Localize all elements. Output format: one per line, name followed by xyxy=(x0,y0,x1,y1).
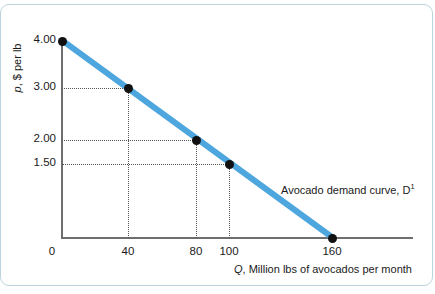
guide-line-vertical-80 xyxy=(196,140,197,238)
x-tick-label-100: 100 xyxy=(209,245,249,257)
guide-line-horizontal-1.50 xyxy=(62,164,230,165)
y-tick-label-1.50: 1.50 xyxy=(34,156,56,168)
x-axis-title-symbol: Q xyxy=(234,263,243,275)
guide-line-horizontal-2.00 xyxy=(62,140,197,141)
data-point-40-3.00 xyxy=(124,84,133,93)
guide-line-vertical-40 xyxy=(128,88,129,238)
data-point-80-2.00 xyxy=(192,136,201,145)
x-axis-line xyxy=(61,237,413,239)
y-tick-label-2.00: 2.00 xyxy=(34,132,56,144)
y-tick-label-3.00: 3.00 xyxy=(34,80,56,92)
x-axis-title-rest: , Million lbs of avocados per month xyxy=(243,263,412,275)
guide-line-vertical-100 xyxy=(229,164,230,238)
guide-line-horizontal-3.00 xyxy=(62,88,129,89)
y-axis-title-symbol: p xyxy=(11,86,23,92)
y-axis-title: p, $ per lb xyxy=(11,28,23,108)
y-axis-title-rest: , $ per lb xyxy=(11,44,23,87)
demand-curve-superscript: 1 xyxy=(410,184,414,196)
chart-plot-area: 4.00 3.00 2.00 1.50 0 40 80 100 160 p, $… xyxy=(0,0,435,294)
x-tick-label-160: 160 xyxy=(312,245,352,257)
y-axis-line xyxy=(61,39,63,239)
x-tick-label-40: 40 xyxy=(108,245,148,257)
data-point-160-0.00 xyxy=(328,234,337,243)
y-tick-label-4.00: 4.00 xyxy=(34,33,56,45)
x-tick-label-0: 0 xyxy=(32,245,72,257)
demand-curve-superscript-value: 1 xyxy=(410,182,414,191)
demand-curve-label: Avocado demand curve, D1 xyxy=(281,182,415,196)
data-point-100-1.50 xyxy=(225,160,234,169)
data-point-0-4.00 xyxy=(58,37,67,46)
x-axis-title: Q, Million lbs of avocados per month xyxy=(234,263,412,275)
demand-curve-label-text: Avocado demand curve, D xyxy=(281,184,410,196)
